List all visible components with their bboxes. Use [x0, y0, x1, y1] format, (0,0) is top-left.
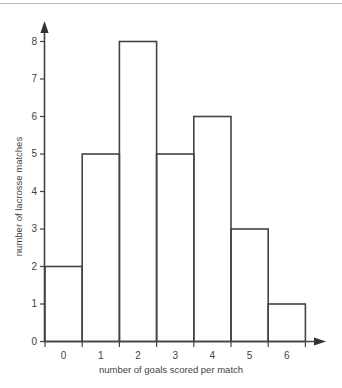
bar-6 [268, 304, 305, 342]
y-tick-label-6: 6 [23, 112, 37, 122]
x-axis-ticks [45, 342, 305, 348]
y-tick-label-8: 8 [23, 37, 37, 47]
y-tick-label-5: 5 [23, 149, 37, 159]
x-axis-arrowhead [314, 337, 326, 345]
x-tick-label-3: 3 [165, 351, 185, 361]
bar-3 [157, 154, 194, 342]
bar-5 [231, 229, 268, 342]
x-tick-label-5: 5 [240, 351, 260, 361]
y-axis-title: number of lacrosse matches [13, 117, 24, 277]
x-tick-label-6: 6 [277, 351, 297, 361]
chart-svg [0, 0, 342, 388]
bar-2 [119, 42, 156, 342]
y-tick-label-3: 3 [23, 224, 37, 234]
y-axis-arrowhead [40, 21, 48, 33]
x-axis-title: number of goals scored per match [26, 364, 316, 375]
x-tick-label-0: 0 [54, 351, 74, 361]
bar-1 [82, 154, 119, 342]
x-tick-label-1: 1 [91, 351, 111, 361]
axis-lines [40, 21, 326, 346]
x-tick-label-4: 4 [202, 351, 222, 361]
x-tick-label-2: 2 [128, 351, 148, 361]
bar-group [45, 42, 305, 342]
y-tick-label-7: 7 [23, 74, 37, 84]
y-tick-label-2: 2 [23, 262, 37, 272]
y-tick-label-0: 0 [23, 337, 37, 347]
y-tick-label-1: 1 [23, 299, 37, 309]
bar-0 [45, 267, 82, 342]
histogram-chart: 0 1 2 3 4 5 6 7 8 0 1 2 3 4 5 6 number o… [0, 0, 342, 388]
bar-4 [194, 117, 231, 342]
y-tick-label-4: 4 [23, 187, 37, 197]
